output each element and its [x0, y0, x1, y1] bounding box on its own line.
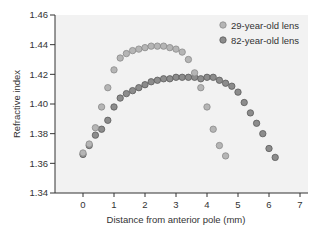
data-point [136, 46, 142, 52]
legend-marker-82-year-old [220, 37, 226, 43]
x-tick-label: 6 [266, 199, 271, 210]
data-point [92, 125, 98, 131]
data-point [86, 141, 92, 147]
data-point [117, 95, 123, 101]
data-point [105, 117, 111, 123]
data-point [173, 46, 179, 52]
x-tick-label: 4 [204, 199, 209, 210]
data-point [117, 55, 123, 61]
x-tick-label: 3 [173, 199, 178, 210]
data-point [129, 47, 135, 53]
data-point [136, 84, 142, 90]
y-axis-title: Refractive index [11, 70, 22, 138]
data-point [160, 43, 166, 49]
y-tick-label: 1.46 [30, 9, 49, 20]
x-axis: 01234567 [55, 193, 308, 210]
data-point [179, 74, 185, 80]
data-point [142, 44, 148, 50]
x-axis-title: Distance from anterior pole (mm) [107, 214, 246, 225]
data-point [154, 43, 160, 49]
data-point [148, 79, 154, 85]
data-point [210, 126, 216, 132]
data-point [80, 150, 86, 156]
y-tick-label: 1.38 [30, 128, 49, 139]
data-point [167, 44, 173, 50]
y-tick-label: 1.44 [30, 39, 49, 50]
data-point [142, 82, 148, 88]
x-tick-label: 1 [111, 199, 116, 210]
y-tick-label: 1.34 [30, 187, 49, 198]
data-point [167, 76, 173, 82]
legend-marker-29-year-old [220, 22, 226, 28]
data-point [253, 120, 259, 126]
y-tick-label: 1.36 [30, 158, 49, 169]
data-point [260, 130, 266, 136]
data-point [198, 84, 204, 90]
data-point [92, 132, 98, 138]
data-point [222, 153, 228, 159]
data-point [210, 74, 216, 80]
data-point [247, 110, 253, 116]
data-point [154, 77, 160, 83]
legend-label-82-year-old: 82-year-old lens [231, 35, 299, 46]
data-point [204, 104, 210, 110]
legend-label-29-year-old: 29-year-old lens [231, 20, 299, 31]
data-point [179, 49, 185, 55]
data-point [191, 70, 197, 76]
data-point [235, 89, 241, 95]
data-point [216, 142, 222, 148]
data-point [111, 104, 117, 110]
data-point [123, 90, 129, 96]
data-point [198, 76, 204, 82]
data-point [216, 77, 222, 83]
data-point [129, 87, 135, 93]
data-point [98, 126, 104, 132]
data-point [98, 104, 104, 110]
x-tick-label: 5 [235, 199, 240, 210]
data-point [148, 43, 154, 49]
x-tick-label: 7 [297, 199, 302, 210]
data-point [185, 56, 191, 62]
data-point [123, 50, 129, 56]
y-axis: 1.341.361.381.401.421.441.46 [30, 9, 56, 198]
data-point [185, 74, 191, 80]
data-point [241, 99, 247, 105]
data-point [272, 154, 278, 160]
x-tick-label: 2 [142, 199, 147, 210]
data-point [105, 84, 111, 90]
scatter-chart: 1.341.361.381.401.421.441.46 01234567 Di… [0, 0, 318, 236]
data-point [266, 145, 272, 151]
data-point [229, 83, 235, 89]
y-tick-label: 1.40 [30, 98, 49, 109]
data-point [173, 74, 179, 80]
data-point [222, 80, 228, 86]
y-tick-label: 1.42 [30, 69, 49, 80]
x-tick-label: 0 [80, 199, 85, 210]
data-point [204, 74, 210, 80]
data-point [111, 67, 117, 73]
data-point [160, 76, 166, 82]
